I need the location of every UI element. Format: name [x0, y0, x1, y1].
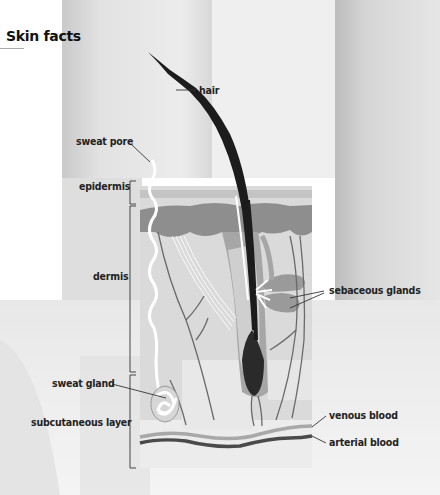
label-dermis: dermis	[93, 270, 128, 282]
label-sebaceous-glands: sebaceous glands	[329, 284, 421, 296]
dermis-bracket	[130, 206, 136, 372]
label-epidermis: epidermis	[79, 180, 130, 192]
label-hair: hair	[199, 84, 219, 96]
label-sweat-gland: sweat gland	[52, 377, 115, 389]
label-arterial-blood: arterial blood	[329, 436, 399, 448]
sweat-pore-leader	[132, 145, 150, 162]
sweat-gland-coil	[151, 386, 179, 422]
label-venous-blood: venous blood	[329, 409, 398, 421]
label-sweat-pore: sweat pore	[76, 135, 133, 147]
venous-leader	[312, 416, 326, 427]
arterial-leader	[312, 436, 326, 443]
epidermis-bracket	[130, 181, 136, 204]
label-subcutaneous-layer: subcutaneous layer	[31, 416, 132, 428]
